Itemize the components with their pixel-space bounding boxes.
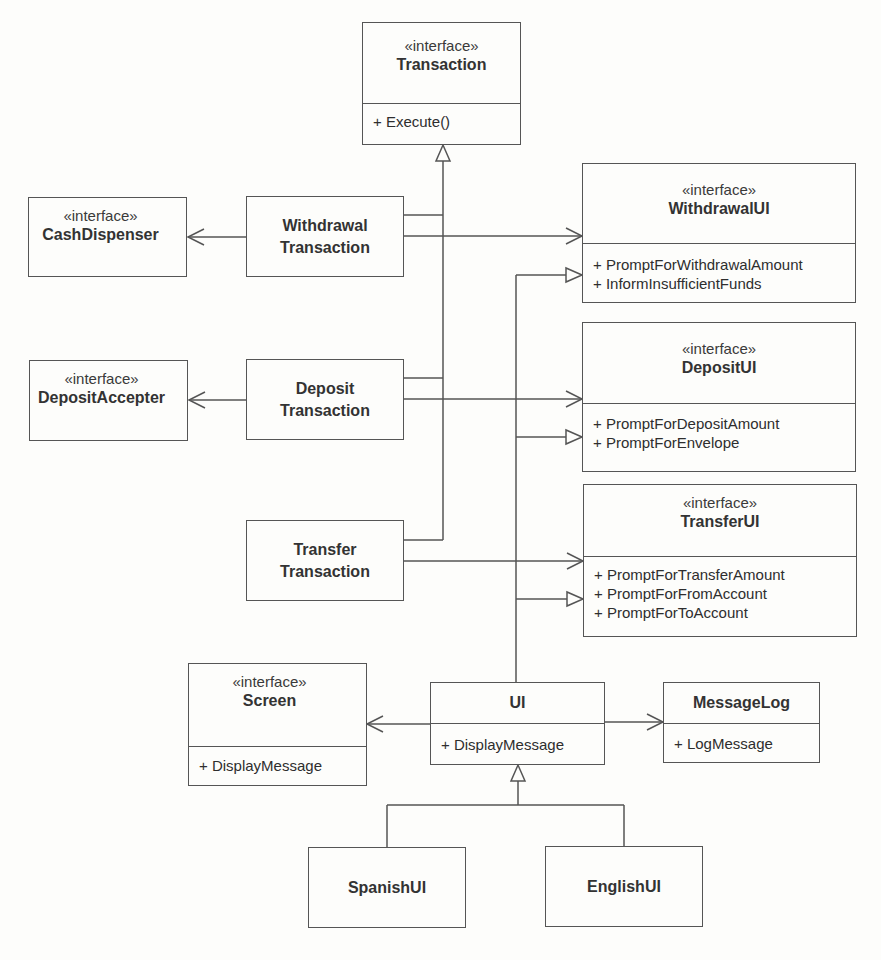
- class-transfer-transaction[interactable]: Transfer Transaction: [246, 520, 404, 601]
- operation: + PromptForFromAccount: [594, 584, 852, 603]
- class-spanish-ui[interactable]: SpanishUI: [308, 847, 466, 928]
- operation: + PromptForDepositAmount: [593, 414, 851, 433]
- stereotype-label: «interface»: [29, 207, 172, 225]
- realization-arrowhead-icon: [566, 268, 582, 282]
- class-transaction[interactable]: «interface» Transaction + Execute(): [362, 22, 521, 145]
- class-name: TransferUI: [584, 512, 856, 532]
- class-name: MessageLog: [664, 693, 819, 713]
- operation: + PromptForToAccount: [594, 603, 852, 622]
- compartment-divider: [363, 103, 520, 104]
- stereotype-label: «interface»: [189, 673, 350, 691]
- class-message-log[interactable]: MessageLog + LogMessage: [663, 682, 820, 763]
- class-name: DepositAccepter: [30, 388, 173, 408]
- operation: + InformInsufficientFunds: [593, 274, 851, 293]
- class-name: DepositUI: [583, 358, 855, 378]
- class-name: Transaction: [363, 55, 520, 75]
- operation: + DisplayMessage: [199, 756, 362, 775]
- compartment-divider: [584, 556, 856, 557]
- compartment-divider: [583, 403, 855, 404]
- generalization-arrowhead-icon: [511, 765, 525, 781]
- class-name: UI: [431, 693, 604, 713]
- stereotype-label: «interface»: [30, 370, 173, 388]
- class-cash-dispenser[interactable]: «interface» CashDispenser: [28, 197, 187, 277]
- class-name: Transfer Transaction: [247, 539, 403, 583]
- operation: + LogMessage: [674, 734, 815, 753]
- operation: + PromptForTransferAmount: [594, 565, 852, 584]
- operations-list: + PromptForDepositAmount + PromptForEnve…: [593, 414, 851, 452]
- class-deposit-accepter[interactable]: «interface» DepositAccepter: [29, 360, 188, 441]
- operations-list: + PromptForTransferAmount + PromptForFro…: [594, 565, 852, 622]
- operation: + PromptForWithdrawalAmount: [593, 255, 851, 274]
- class-name: Withdrawal Transaction: [247, 215, 403, 259]
- operations-list: + LogMessage: [674, 734, 815, 753]
- operation: + DisplayMessage: [441, 735, 600, 754]
- class-deposit-transaction[interactable]: Deposit Transaction: [246, 359, 404, 440]
- stereotype-label: «interface»: [583, 181, 855, 199]
- class-name: Screen: [189, 691, 350, 711]
- realization-arrowhead-icon: [566, 430, 582, 444]
- class-name: SpanishUI: [309, 877, 465, 899]
- class-english-ui[interactable]: EnglishUI: [545, 846, 703, 927]
- stereotype-label: «interface»: [363, 37, 520, 55]
- realization-arrowhead-icon: [567, 592, 583, 606]
- class-screen[interactable]: «interface» Screen + DisplayMessage: [188, 663, 367, 786]
- class-withdrawal-ui[interactable]: «interface» WithdrawalUI + PromptForWith…: [582, 163, 856, 303]
- operations-list: + DisplayMessage: [441, 735, 600, 754]
- uml-class-diagram: «interface» Transaction + Execute() «int…: [0, 0, 881, 960]
- class-name: CashDispenser: [29, 225, 172, 245]
- compartment-divider: [189, 746, 366, 747]
- stereotype-label: «interface»: [583, 340, 855, 358]
- operations-list: + PromptForWithdrawalAmount + InformInsu…: [593, 255, 851, 293]
- operations-list: + Execute(): [373, 112, 516, 131]
- compartment-divider: [583, 243, 855, 244]
- realization-arrowhead-icon: [436, 145, 450, 161]
- class-withdrawal-transaction[interactable]: Withdrawal Transaction: [246, 196, 404, 277]
- compartment-divider: [431, 723, 604, 724]
- stereotype-label: «interface»: [584, 494, 856, 512]
- class-deposit-ui[interactable]: «interface» DepositUI + PromptForDeposit…: [582, 322, 856, 472]
- operation: + PromptForEnvelope: [593, 433, 851, 452]
- compartment-divider: [664, 723, 819, 724]
- class-ui[interactable]: UI + DisplayMessage: [430, 682, 605, 765]
- operation: + Execute(): [373, 112, 516, 131]
- class-name: Deposit Transaction: [247, 378, 403, 422]
- operations-list: + DisplayMessage: [199, 756, 362, 775]
- class-transfer-ui[interactable]: «interface» TransferUI + PromptForTransf…: [583, 484, 857, 637]
- class-name: EnglishUI: [546, 876, 702, 898]
- class-name: WithdrawalUI: [583, 199, 855, 219]
